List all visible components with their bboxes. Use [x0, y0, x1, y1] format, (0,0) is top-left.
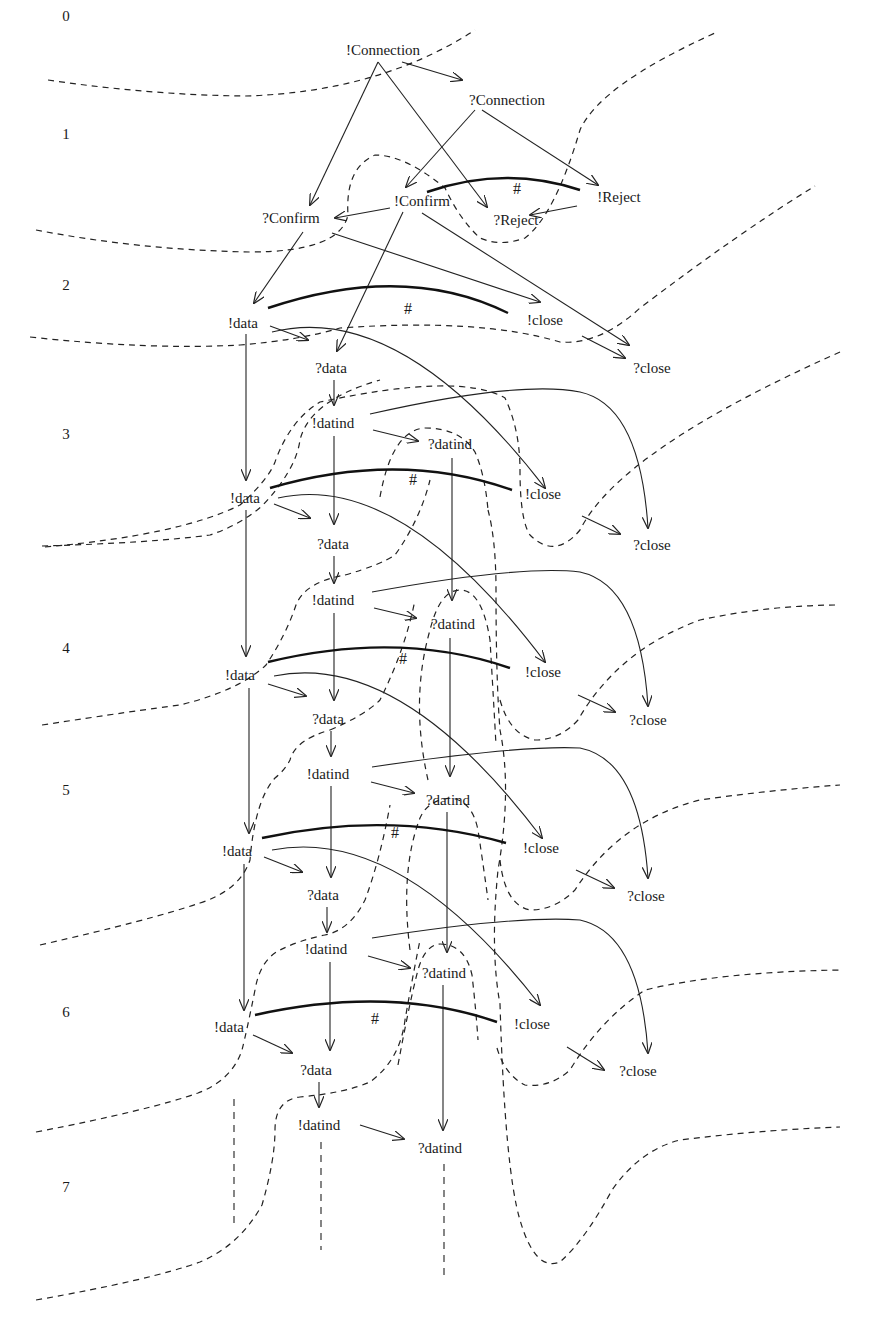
- cut-line: [30, 186, 815, 346]
- cut-line: [42, 380, 380, 546]
- causality-arrow: [582, 336, 625, 358]
- cut-line: [345, 480, 430, 575]
- level-label: 3: [62, 426, 70, 442]
- level-label: 4: [62, 640, 70, 656]
- event-node: ?data: [300, 1062, 332, 1078]
- level-label: 2: [62, 277, 70, 293]
- event-node: ?close: [627, 888, 665, 904]
- cut-line: [48, 30, 475, 96]
- causality-arrow: [310, 62, 378, 205]
- causality-arrow: [274, 673, 542, 838]
- causality-arrow: [374, 608, 416, 618]
- causality-arrow: [582, 516, 620, 534]
- event-node: ?close: [629, 712, 667, 728]
- event-node: !data: [225, 667, 255, 683]
- causality-arrow: [482, 110, 598, 185]
- conflict-marker: #: [399, 650, 407, 667]
- diagram-svg: ###### 01234567 !Connection?Connection!C…: [0, 0, 869, 1318]
- event-node: ?close: [633, 537, 671, 553]
- level-labels: 01234567: [62, 8, 70, 1195]
- event-node: ?datind: [428, 436, 473, 452]
- conflict-arc: [268, 647, 510, 668]
- event-node: !close: [514, 1016, 550, 1032]
- causality-arrow: [373, 430, 418, 441]
- event-node: !close: [523, 840, 559, 856]
- event-node: ?close: [633, 360, 671, 376]
- event-node: !datind: [312, 415, 355, 431]
- event-node: ?Reject: [494, 212, 540, 228]
- causality-arrow: [370, 389, 648, 528]
- causality-arrow: [270, 326, 308, 340]
- event-node: !close: [525, 664, 561, 680]
- causality-arrow: [372, 571, 648, 706]
- cut-line: [440, 944, 478, 1040]
- event-node: ?datind: [426, 792, 471, 808]
- causality-arrow: [371, 782, 414, 793]
- event-node: ?datind: [431, 616, 476, 632]
- event-node: ?Connection: [469, 92, 545, 108]
- causality-arrow: [272, 327, 545, 488]
- cut-line: [36, 33, 715, 252]
- causality-arrow: [272, 847, 540, 1005]
- event-node: ?data: [317, 536, 349, 552]
- level-label: 6: [62, 1004, 70, 1020]
- event-node: !close: [527, 312, 563, 328]
- causality-arrow: [372, 919, 648, 1053]
- event-node: !datind: [305, 941, 348, 957]
- conflict-arc: [270, 469, 512, 490]
- event-node: ?Confirm: [262, 210, 320, 226]
- causality-arrow: [332, 233, 540, 302]
- level-label: 0: [62, 8, 70, 24]
- event-node: !Confirm: [394, 193, 450, 209]
- causality-arrow: [402, 62, 462, 80]
- causality-arrow: [278, 494, 545, 662]
- event-structure-diagram: ###### 01234567 !Connection?Connection!C…: [0, 0, 869, 1318]
- conflict-marker: #: [404, 300, 412, 317]
- causality-arrow: [422, 213, 629, 345]
- causality-arrow: [372, 748, 648, 878]
- event-node: !datind: [312, 592, 355, 608]
- conflict-marker: #: [409, 471, 417, 488]
- causality-arrow: [254, 232, 303, 303]
- event-node: ?datind: [422, 965, 467, 981]
- event-node: !close: [525, 486, 561, 502]
- event-node: !datind: [307, 766, 350, 782]
- causality-arrow: [378, 62, 487, 207]
- conflict-arc: [427, 178, 580, 192]
- causality-arrow: [576, 870, 614, 888]
- conflict-marker: #: [391, 824, 399, 841]
- cut-line: [42, 575, 345, 725]
- event-node: !data: [214, 1019, 244, 1035]
- causality-arrow: [335, 208, 390, 218]
- causality-arrow: [337, 212, 403, 351]
- event-node: !Connection: [346, 42, 421, 58]
- level-label: 5: [62, 782, 70, 798]
- event-node: ?data: [312, 711, 344, 727]
- causality-arrow: [268, 684, 306, 696]
- conflict-marker: #: [513, 180, 521, 197]
- event-node: !data: [230, 490, 260, 506]
- event-node: !datind: [298, 1117, 341, 1133]
- causality-arrow: [368, 956, 410, 968]
- cut-line: [40, 730, 330, 945]
- event-node: !data: [228, 315, 258, 331]
- event-node: ?datind: [418, 1140, 463, 1156]
- event-node: !data: [222, 843, 252, 859]
- causality-arrow: [274, 504, 310, 518]
- event-node: !Reject: [597, 189, 641, 205]
- conflict-arc: [268, 286, 508, 313]
- causality-arrow: [360, 1125, 404, 1139]
- conflict-marker: #: [371, 1010, 379, 1027]
- cut-lines: [30, 30, 840, 1300]
- level-label: 7: [62, 1179, 70, 1195]
- conflict-arcs: ######: [255, 178, 580, 1027]
- causality-arrow: [264, 857, 302, 872]
- cut-line: [488, 510, 840, 1264]
- event-node: ?close: [619, 1063, 657, 1079]
- causality-arrow: [406, 110, 475, 187]
- level-label: 1: [62, 126, 70, 142]
- cut-line: [36, 805, 390, 1132]
- event-node: ?data: [315, 360, 347, 376]
- causality-arrow: [253, 1035, 292, 1053]
- causality-arrow: [578, 695, 615, 712]
